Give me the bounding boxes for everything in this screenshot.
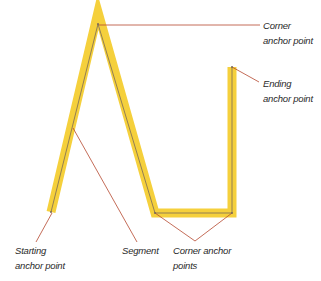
path-highlight (51, 12, 232, 213)
label-line: Segment (122, 243, 159, 258)
label-line: Ending (263, 76, 313, 91)
label-segment: Segment (122, 243, 159, 258)
path-line (51, 24, 232, 213)
label-line: anchor point (263, 91, 313, 106)
anchor-point-bottom-left (154, 212, 156, 214)
label-corner-anchor-points: Corner anchor points (173, 243, 231, 273)
leader-starting (36, 213, 52, 242)
label-ending-anchor-point: Ending anchor point (263, 76, 313, 106)
anchor-point-start (50, 211, 52, 213)
anchor-point-peak (97, 23, 99, 25)
anchor-point-bottom-right (231, 212, 233, 214)
leader-segment (73, 128, 137, 242)
label-line: anchor point (263, 33, 313, 48)
anchor-point-end (231, 66, 233, 68)
label-corner-anchor-point: Corner anchor point (263, 18, 313, 48)
label-line: Corner (263, 18, 313, 33)
label-line: Starting (15, 243, 65, 258)
label-line: anchor point (15, 258, 65, 273)
label-line: points (173, 258, 231, 273)
label-line: Corner anchor (173, 243, 231, 258)
label-starting-anchor-point: Starting anchor point (15, 243, 65, 273)
